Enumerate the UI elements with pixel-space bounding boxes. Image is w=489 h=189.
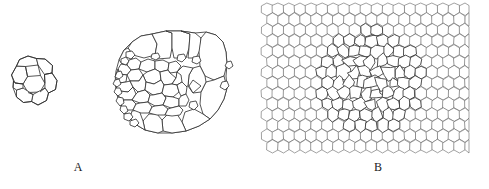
large-cluster — [113, 31, 233, 133]
lattice-cell-ordered — [454, 140, 466, 154]
lattice-cell-ordered — [399, 140, 411, 153]
figure-root: A B — [0, 0, 489, 189]
cell-ring — [37, 59, 53, 75]
panel-a-canvas — [0, 0, 250, 189]
lattice-cell-disordered — [338, 109, 350, 121]
small-cluster — [12, 56, 58, 105]
lattice-cell-disordered — [371, 24, 383, 36]
panel-label-b: B — [368, 161, 388, 173]
panel-b: B — [250, 0, 489, 189]
cell-ring — [17, 56, 39, 67]
panel-a: A — [0, 0, 250, 189]
panel-label-a: A — [68, 161, 88, 173]
cell-core — [133, 102, 152, 113]
